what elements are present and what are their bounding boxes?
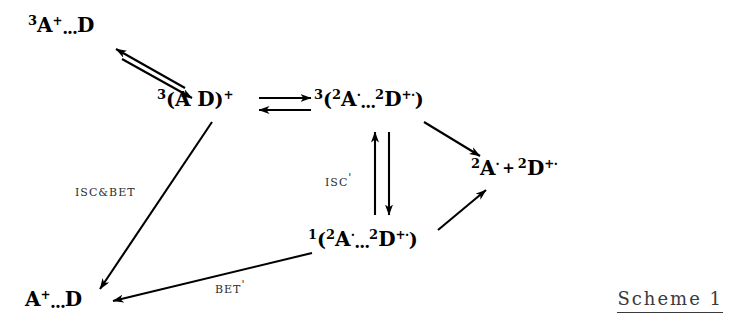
reaction-label-isc-prime: ISC' [325, 171, 352, 189]
multiplicity-superscript: 3 [28, 13, 37, 28]
pair-charge: + [224, 88, 234, 102]
donor-atom: D [197, 87, 214, 111]
isc-prime-mark: ' [348, 171, 352, 184]
species-singlet-radical-pair: 1(2A·...2D+·) [308, 228, 418, 249]
bet-prime-mark: ' [241, 278, 245, 291]
donor-charge-radical-mark: +· [395, 228, 408, 242]
paren-open: ( [317, 228, 326, 250]
arrow-triplet-pair-to-free-ions [424, 122, 480, 156]
acceptor-atom: A [335, 227, 351, 251]
species-triplet-ion-pair-top: 3A+...D [28, 14, 94, 35]
reaction-label-isc-bet: ISC&BET [75, 186, 136, 199]
arrow-isc-bet-decay [100, 122, 212, 289]
donor-atom: D [65, 287, 82, 311]
interaction-dots: ... [360, 92, 375, 112]
interaction-dots: ... [50, 292, 65, 312]
species-ion-pair-bottom: A+...D [25, 289, 82, 309]
acceptor-charge: + [41, 288, 51, 302]
plus-operator: + [499, 159, 518, 177]
donor-atom: D [378, 227, 395, 251]
acceptor-multiplicity: 2 [332, 87, 341, 102]
species-free-ions: 2A·+2D+· [471, 157, 557, 178]
arrow-bet-prime-decay [113, 253, 312, 301]
donor-multiplicity: 2 [375, 87, 384, 102]
donor-charge-radical-mark: +· [401, 88, 414, 102]
scheme-caption: Scheme 1 [617, 288, 723, 313]
acceptor-atom: A [25, 287, 41, 311]
donor-atom: D [527, 156, 544, 180]
paren-close: ) [415, 88, 424, 110]
acceptor-multiplicity: 2 [326, 227, 335, 242]
multiplicity-superscript: 3 [314, 87, 323, 102]
arrow-vertical-isc-equilibrium [375, 132, 389, 215]
acceptor-atom: A [175, 87, 191, 111]
reaction-label-bet-prime: BET' [215, 278, 245, 296]
donor-multiplicity: 2 [369, 227, 378, 242]
multiplicity-superscript: 3 [157, 87, 166, 102]
donor-charge-radical-mark: +· [544, 157, 557, 171]
isc-prime-text: ISC [325, 176, 348, 189]
paren-close: ) [215, 88, 224, 110]
interaction-dots: ... [354, 232, 369, 252]
species-triplet-contact-pair: 3(A D)+ [157, 88, 233, 109]
bet-prime-text: BET [215, 283, 241, 296]
arrow-layer [0, 0, 741, 335]
isc-bet-text: ISC&BET [75, 186, 136, 199]
paren-open: ( [323, 88, 332, 110]
donor-multiplicity: 2 [518, 156, 527, 171]
species-triplet-radical-pair: 3(2A·...2D+·) [314, 88, 424, 109]
reaction-scheme-figure: 3A+...D 3(A D)+ 3(2A·...2D+·) 1(2A·...2D… [0, 0, 741, 335]
paren-open: ( [166, 88, 175, 110]
arrow-singlet-pair-to-free-ions [438, 190, 486, 230]
acceptor-atom: A [37, 13, 53, 37]
paren-close: ) [409, 228, 418, 250]
acceptor-charge: + [53, 14, 63, 28]
multiplicity-superscript: 1 [308, 227, 317, 242]
donor-atom: D [384, 87, 401, 111]
arrow-horizontal-equilibrium [259, 98, 311, 110]
interaction-dots: ... [62, 18, 77, 38]
donor-atom: D [77, 13, 94, 37]
acceptor-multiplicity: 2 [471, 156, 480, 171]
acceptor-atom: A [480, 156, 496, 180]
acceptor-atom: A [341, 87, 357, 111]
